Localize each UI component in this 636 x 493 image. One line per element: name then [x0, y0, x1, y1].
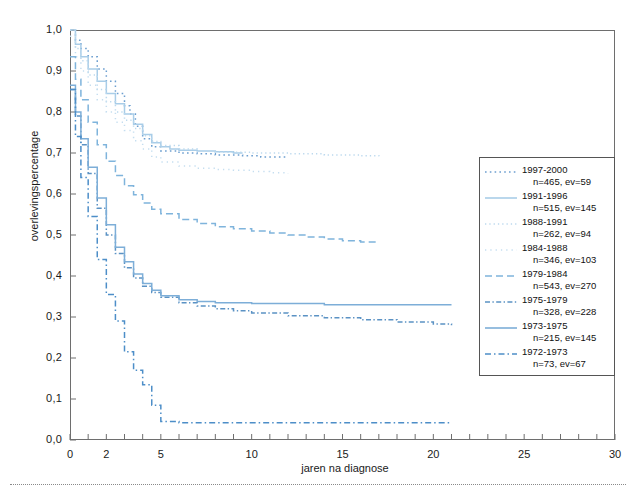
legend-line-swatch — [484, 218, 518, 230]
legend-stats: n=328, ev=228 — [522, 306, 596, 318]
y-tick-label: 0,2 — [30, 351, 62, 363]
x-tick-label: 20 — [418, 448, 448, 460]
legend-stats: n=73, ev=67 — [522, 358, 586, 370]
legend-period: 1991-1996 — [522, 190, 567, 201]
legend-period: 1997-2000 — [522, 164, 567, 175]
legend-label: 1975-1979n=328, ev=228 — [522, 294, 596, 317]
x-tick-label: 15 — [328, 448, 358, 460]
legend-item[interactable]: 1979-1984n=543, ev=270 — [484, 268, 610, 291]
x-tick-label: 25 — [509, 448, 539, 460]
legend-label: 1997-2000n=465, ev=59 — [522, 164, 591, 187]
x-tick-label: 2 — [91, 448, 121, 460]
legend-stats: n=262, ev=94 — [522, 228, 591, 240]
legend-label: 1988-1991n=262, ev=94 — [522, 216, 591, 239]
legend-label: 1973-1975n=215, ev=145 — [522, 320, 596, 343]
x-tick-label: 10 — [237, 448, 267, 460]
legend-stats: n=543, ev=270 — [522, 280, 596, 292]
y-tick-label: 0,3 — [30, 310, 62, 322]
legend-item[interactable]: 1975-1979n=328, ev=228 — [484, 294, 610, 317]
legend-period: 1979-1984 — [522, 268, 567, 279]
legend-item[interactable]: 1984-1988n=346, ev=103 — [484, 242, 610, 265]
legend-period: 1984-1988 — [522, 242, 567, 253]
legend-item[interactable]: 1988-1991n=262, ev=94 — [484, 216, 610, 239]
x-tick-label: 5 — [146, 448, 176, 460]
legend-period: 1975-1979 — [522, 294, 567, 305]
y-tick-label: 1,0 — [30, 23, 62, 35]
legend-line-swatch — [484, 322, 518, 334]
bottom-divider — [10, 484, 626, 485]
legend-label: 1979-1984n=543, ev=270 — [522, 268, 596, 291]
legend-label: 1972-1973n=73, ev=67 — [522, 346, 586, 369]
legend-line-swatch — [484, 270, 518, 282]
legend-stats: n=346, ev=103 — [522, 254, 596, 266]
y-axis-title: overlevingspercentage — [28, 106, 40, 266]
y-tick-label: 0,1 — [30, 392, 62, 404]
legend-stats: n=465, ev=59 — [522, 176, 591, 188]
legend-line-swatch — [484, 348, 518, 360]
legend-item[interactable]: 1973-1975n=215, ev=145 — [484, 320, 610, 343]
y-tick-label: 0,0 — [30, 433, 62, 445]
legend-period: 1988-1991 — [522, 216, 567, 227]
legend-period: 1973-1975 — [522, 320, 567, 331]
legend-item[interactable]: 1991-1996n=515, ev=145 — [484, 190, 610, 213]
legend-item[interactable]: 1972-1973n=73, ev=67 — [484, 346, 610, 369]
x-axis-title: jaren na diagnose — [215, 462, 475, 474]
legend-line-swatch — [484, 166, 518, 178]
y-tick-label: 0,4 — [30, 269, 62, 281]
x-tick-label: 30 — [600, 448, 630, 460]
legend-box: 1997-2000n=465, ev=591991-1996n=515, ev=… — [479, 157, 615, 376]
legend-line-swatch — [484, 192, 518, 204]
legend-label: 1984-1988n=346, ev=103 — [522, 242, 596, 265]
legend-line-swatch — [484, 296, 518, 308]
chart-root: 0,00,10,20,30,40,50,60,70,80,91,0 025101… — [0, 0, 636, 493]
y-tick-label: 0,9 — [30, 64, 62, 76]
legend-stats: n=215, ev=145 — [522, 332, 596, 344]
x-tick-label: 0 — [55, 448, 85, 460]
legend-line-swatch — [484, 244, 518, 256]
legend-item[interactable]: 1997-2000n=465, ev=59 — [484, 164, 610, 187]
legend-label: 1991-1996n=515, ev=145 — [522, 190, 596, 213]
legend-period: 1972-1973 — [522, 346, 567, 357]
legend-stats: n=515, ev=145 — [522, 202, 596, 214]
